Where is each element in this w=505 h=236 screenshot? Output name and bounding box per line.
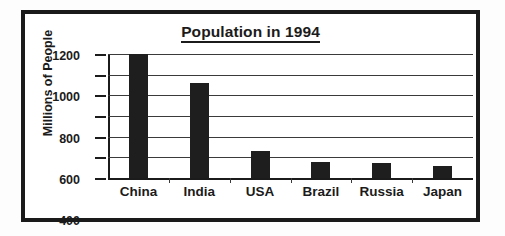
x-axis-tick-mark [412,178,413,183]
y-axis-tick-label: 600 [59,173,80,187]
y-axis-tick-mark: 0 [95,178,106,180]
x-axis-category-label: Russia [360,184,404,199]
bar [129,54,148,178]
bar [372,163,391,178]
x-axis-tick-mark [351,178,352,183]
x-axis-tick-mark [169,178,170,183]
plot-area: 020040060080010001200 ChinaIndiaUSABrazi… [108,54,473,178]
bar [190,83,209,178]
y-axis-tick-label: 1000 [52,90,80,104]
y-axis-tick-mark: 600 [95,116,106,118]
y-axis-tick-label: 800 [59,132,80,146]
x-axis-tick-mark [230,178,231,183]
x-axis-category-label: USA [246,184,275,199]
x-axis-category-label: India [183,184,215,199]
chart-title-text: Population in 1994 [181,23,320,43]
x-axis-category-label: China [120,184,158,199]
y-axis-title: Millions of People [41,13,55,153]
y-axis-tick-mark: 400 [95,137,106,139]
bar [433,166,452,178]
x-axis-category-label: Japan [423,184,462,199]
chart-figure-frame: Population in 1994 Millions of People 02… [21,10,480,222]
x-axis-category-label: Brazil [303,184,340,199]
y-axis-tick-mark: 1200 [95,54,106,56]
y-axis-tick-mark: 800 [95,95,106,97]
bar [311,162,330,178]
y-axis-tick-label: 1200 [52,49,80,63]
bar [251,151,270,178]
bar-group [108,54,473,178]
screenshot-canvas: Population in 1994 Millions of People 02… [0,0,505,236]
y-axis-tick-label: 400 [59,214,80,228]
chart-title: Population in 1994 [25,23,476,41]
y-axis-tick-mark: 1000 [95,75,106,77]
y-axis-tick-mark: 200 [95,157,106,159]
x-axis-tick-mark [291,178,292,183]
